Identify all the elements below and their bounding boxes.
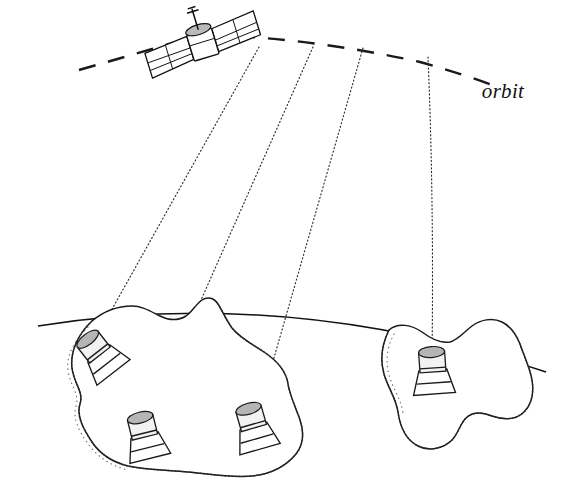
landmass-right (382, 319, 533, 448)
solar-panel-left (144, 36, 196, 78)
orbit-dashed-path-right (238, 36, 492, 85)
downlink-beam-1 (88, 47, 259, 352)
solar-panel-right (210, 11, 262, 52)
landmass-left (68, 298, 303, 477)
landmass-right-outline (382, 319, 533, 448)
landmass-left-outline (72, 298, 303, 477)
downlink-beam-4 (428, 57, 433, 357)
orbit-track-group (79, 36, 492, 85)
diagram-canvas: orbit (0, 0, 564, 492)
satellite-coverage-diagram: orbit (0, 0, 564, 492)
antenna-crossbar-upper (188, 7, 196, 9)
satellite-icon (136, 0, 263, 78)
orbit-label: orbit (482, 79, 525, 103)
